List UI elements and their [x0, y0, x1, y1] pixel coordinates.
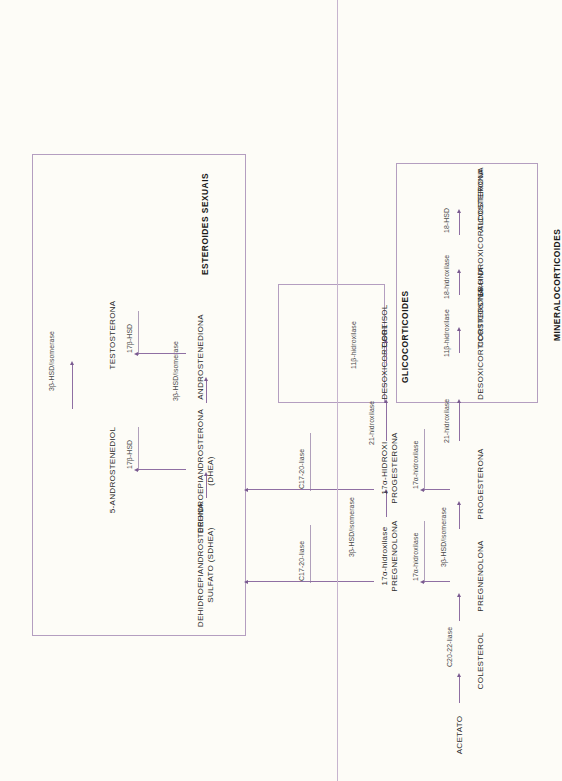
enzyme-21-hidroxilase-2: 21-hidroxilase — [368, 401, 376, 445]
arrow-progesterona-up — [424, 489, 450, 490]
arrow-hidroxicorticosterona-aldosterona — [459, 213, 460, 235]
arrow-desoxicorticosterona-corticosterona — [459, 331, 460, 353]
rule-17b-hsd-2 — [138, 311, 139, 355]
enzyme-c17-20-liase-1: C17-20-liase — [298, 541, 306, 581]
label-mineralocorticoids: MINERALOCORTICOIDES — [552, 229, 562, 341]
node-17a-hidroxipregnenolona-line1: 17α-hidroxilase — [380, 527, 389, 586]
arrowhead-acetato-colesterol — [457, 673, 461, 677]
arrow-colesterol-pregnenolona — [459, 597, 460, 621]
label-sex-steroids: ESTEROIDES SEXUAIS — [200, 173, 210, 275]
node-dhea-line2: (DHEA) — [206, 456, 215, 485]
enzyme-c17-20-liase-2: C17-20-liase — [298, 449, 306, 489]
arrow-acetato-colesterol — [459, 677, 460, 703]
arrowhead-desoxicorticosterona-corticosterona — [457, 327, 461, 331]
arrowhead-progesterona-up — [420, 488, 424, 492]
node-progesterona: PROGESTERONA — [476, 443, 486, 525]
arrow-hidroxiprogesterona-up — [248, 489, 374, 490]
rule-17b-hsd-1 — [138, 427, 139, 471]
arrowhead-colesterol-pregnenolona — [457, 593, 461, 597]
arrowhead-pregnenolona-up — [420, 580, 424, 584]
node-5-androstenediol: 5-ANDROSTENEDIOL — [108, 417, 118, 523]
node-acetato: ACETATO — [455, 707, 465, 763]
arrowhead-progesterona-desoxicorticosterona — [457, 399, 461, 403]
arrowhead-androstenediol-testosterona — [70, 361, 74, 365]
enzyme-3bhsd-isomerase-2: 3β-HSD/isomerase — [348, 497, 356, 557]
enzyme-21-hidroxilase-1: 21-hidroxilase — [443, 399, 451, 443]
node-androstenediona: ANDROSTENEDIONA — [196, 305, 206, 409]
enzyme-11b-hidroxilase-1: 11β-hidroxilase — [443, 309, 451, 357]
node-dhea: DEHIDROEPIANDROSTERONA (DHEA) — [196, 405, 216, 537]
node-testosterona: TESTOSTERONA — [108, 289, 118, 381]
node-pregnenolona: PREGNENOLONA — [476, 533, 486, 619]
node-dhea-line1: DEHIDROEPIANDROSTERONA — [196, 409, 205, 533]
rule-17a-hidroxilase-2 — [424, 429, 425, 491]
rule-c17-20-liase-2 — [310, 433, 311, 491]
enzyme-17a-hidroxilase-1: 17α-hidroxilase — [412, 533, 420, 581]
node-aldosterona: ALDOSTERONA — [476, 157, 486, 241]
arrow-androstenediol-testosterona — [72, 365, 73, 409]
arrowhead-androstenediona-testosterona — [134, 352, 138, 356]
arrowhead-corticosterona-hidroxicorticosterona — [457, 269, 461, 273]
arrowhead-hidroxicorticosterona-aldosterona — [457, 209, 461, 213]
enzyme-17b-hsd-1: 17β-HSD — [126, 440, 134, 469]
arrow-dhea-androstenediol — [138, 469, 186, 470]
node-colesterol: COLESTEROL — [476, 625, 486, 697]
enzyme-11b-hidroxilase-2: 11β-hidroxilase — [350, 321, 358, 369]
node-dhea-sulfato-line2: SULFATO (SDHEA) — [206, 527, 215, 602]
arrow-pregnenolona-up — [424, 581, 450, 582]
glucocorticoids-box — [278, 284, 385, 403]
enzyme-3bhsd-isomerase-3: 3β-HSD/isomerase — [172, 341, 180, 401]
node-17a-hidroxiprogesterona-line2: PROGESTERONA — [390, 432, 399, 503]
mineralocorticoids-box — [396, 163, 538, 403]
node-cortisol: CORTISOL — [380, 295, 390, 357]
arrowhead-pregnenolona-progesterona — [457, 501, 461, 505]
rule-17a-hidroxilase-1 — [424, 521, 425, 583]
arrowhead-hidroxipregnenolona-up — [244, 580, 248, 584]
arrowhead-dhea-androstenediol — [134, 468, 138, 472]
arrow-pregnenolona-progesterona — [459, 505, 460, 529]
arrow-hidroxipregnenolona-up — [248, 581, 374, 582]
enzyme-c20-22-liase: C20-22-liase — [446, 627, 454, 667]
enzyme-3bhsd-isomerase-1: 3β-HSD/isomerase — [440, 507, 448, 567]
node-17a-hidroxiprogesterona-line1: 17α-HIDROXI — [380, 442, 389, 495]
node-17a-hidroxiprogesterona: 17α-HIDROXI PROGESTERONA — [380, 413, 400, 523]
node-17a-hidroxipregnenolona-line2: PREGNENOLONA — [390, 520, 399, 591]
arrow-corticosterona-hidroxicorticosterona — [459, 273, 460, 295]
enzyme-17b-hsd-2: 17β-HSD — [126, 324, 134, 353]
arrow-hidroxiprogesterona-desoxicortisol — [386, 403, 387, 441]
arrowhead-hidroxiprogesterona-up — [244, 488, 248, 492]
enzyme-18-hidroxilase: 18-hidroxilase — [443, 255, 451, 299]
arrow-androstenediona-testosterona — [138, 353, 186, 354]
label-glucocorticoids: GLICOCORTICOIDES — [400, 290, 410, 383]
enzyme-17a-hidroxilase-2: 17α-hidroxilase — [412, 441, 420, 489]
rule-c17-20-liase-1 — [310, 525, 311, 583]
page-edge-rule — [337, 0, 338, 781]
enzyme-18-hsd: 18-HSD — [443, 208, 451, 233]
enzyme-3bhsd-isomerase-4: 3β-HSD/isomerase — [48, 331, 56, 391]
arrow-progesterona-desoxicorticosterona — [459, 403, 460, 441]
